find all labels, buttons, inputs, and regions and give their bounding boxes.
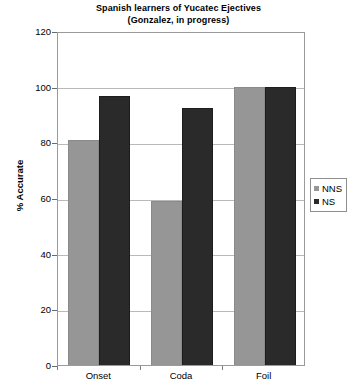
- x-axis-tick-label-onset: Onset: [58, 370, 138, 382]
- x-axis-tick-label-coda: Coda: [141, 370, 221, 382]
- x-axis-tick-label-foil: Foil: [224, 370, 304, 382]
- y-axis-title: % Accurate: [14, 141, 25, 231]
- y-axis-tick-label: 20: [18, 305, 51, 315]
- bar-nns-onset: [68, 140, 99, 365]
- bar-ns-coda: [182, 108, 213, 365]
- legend-item-ns[interactable]: NS: [314, 195, 342, 208]
- legend-item-nns[interactable]: NNS: [314, 182, 342, 195]
- chart-title: Spanish learners of Yucatec Ejectives (G…: [0, 2, 357, 26]
- legend-item-label: NNS: [322, 183, 342, 194]
- chart-title-line-2: (Gonzalez, in progress): [0, 14, 357, 26]
- bar-nns-coda: [151, 201, 182, 365]
- y-axis-tick-label: 40: [18, 250, 51, 260]
- bar-nns-foil: [234, 87, 265, 365]
- chart-legend[interactable]: NNSNS: [310, 178, 347, 212]
- y-axis-tick-label: 100: [18, 83, 51, 93]
- x-axis-tick-labels: OnsetCodaFoil: [57, 370, 305, 386]
- legend-item-label: NS: [322, 196, 335, 207]
- chart-title-line-1: Spanish learners of Yucatec Ejectives: [96, 3, 261, 13]
- square-marker: [314, 199, 319, 204]
- square-marker: [314, 186, 319, 191]
- plot-area: [57, 32, 305, 366]
- bar-ns-onset: [99, 96, 130, 365]
- y-axis-tick-label: 120: [18, 27, 51, 37]
- bar-ns-foil: [265, 87, 296, 365]
- y-axis-tick-label: 0: [18, 361, 51, 371]
